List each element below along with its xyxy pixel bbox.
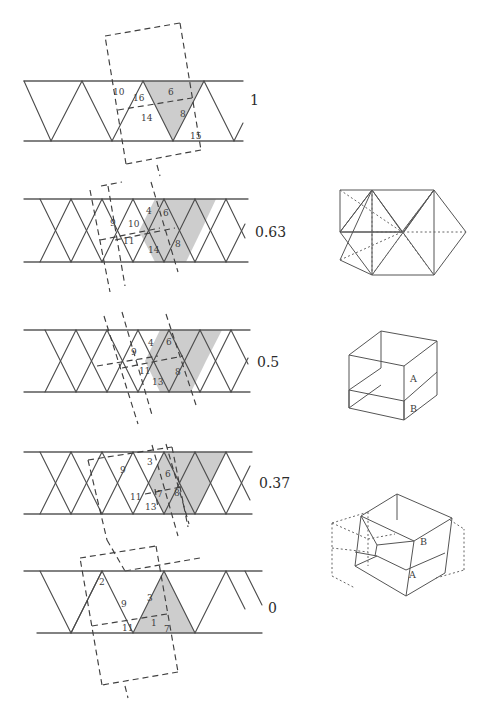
panel-4: 0.37 9 3 6 11 7 8 13 [24,444,290,571]
panel-2-label-6: 8 [175,239,181,249]
panel-4-label-0: 9 [120,465,126,475]
panel-1-window-tails [157,165,160,176]
panel-3-label-5: 8 [175,367,181,377]
panel-5-label-5: 7 [164,624,170,634]
panel-3-label-3: 11 [139,366,150,376]
panel-1-label-3: 14 [141,113,153,123]
solid-top [340,190,466,275]
panel-2-value: 0.63 [255,224,286,240]
panel-2-label-1: 10 [128,219,140,229]
panel-1-triangle-edges [24,81,243,141]
panel-1-value: 1 [250,92,259,108]
panel-5: 0 2 9 3 11 1 7 [24,546,277,698]
panel-4-value: 0.37 [259,475,290,491]
panel-3-label-1: 4 [148,338,154,348]
panel-4-label-5: 8 [174,488,180,498]
figure-root: 1 10 16 6 14 8 15 [0,0,483,709]
panel-5-label-0: 2 [99,577,105,587]
figure-svg: 1 10 16 6 14 8 15 [0,0,483,709]
panel-4-label-2: 6 [165,469,171,479]
panel-1-label-1: 16 [133,93,145,103]
panel-5-label-2: 3 [147,593,153,603]
panel-2-label-5: 14 [148,245,160,255]
panel-4-shaded-region [149,452,226,514]
panel-4-label-4: 7 [157,489,163,499]
panel-1-label-2: 6 [168,87,174,97]
panel-1-label-0: 10 [113,87,125,97]
panel-5-window-tails [125,686,128,698]
panel-5-value: 0 [268,600,277,616]
panel-4-label-1: 3 [147,457,153,467]
solid-middle: A B [349,331,437,420]
solid-bottom-face-label-b: B [420,536,427,547]
panel-5-label-4: 1 [151,618,157,628]
solid-middle-face-label-b: B [410,403,417,414]
panel-3-label-4: 13 [152,377,164,387]
solid-bottom-edges [355,494,452,596]
panel-2: 0.63 9 10 4 6 11 14 8 [24,182,286,292]
panel-1: 1 10 16 6 14 8 15 [24,23,259,176]
solid-bottom: B A [332,494,464,596]
panel-2-label-3: 6 [163,208,169,218]
panel-4-label-6: 13 [145,502,157,512]
panel-5-label-1: 9 [121,599,127,609]
panel-4-label-3: 11 [130,492,141,502]
panel-2-label-4: 11 [123,236,134,246]
panel-2-label-2: 4 [146,206,152,216]
solid-bottom-face-label-a: A [408,569,416,580]
solid-bottom-ghost-cube [332,512,464,588]
panel-1-label-4: 8 [180,109,186,119]
panel-5-label-3: 11 [122,623,133,633]
panel-3: 0.5 9 4 6 11 13 8 [24,312,279,424]
panel-3-value: 0.5 [257,354,279,370]
solid-middle-face-label-a: A [409,373,417,384]
panel-1-label-5: 15 [190,131,202,141]
solid-middle-edges [349,331,437,420]
panel-3-label-0: 9 [131,347,137,357]
panel-2-label-0: 9 [110,218,116,228]
panel-3-label-2: 6 [166,337,172,347]
